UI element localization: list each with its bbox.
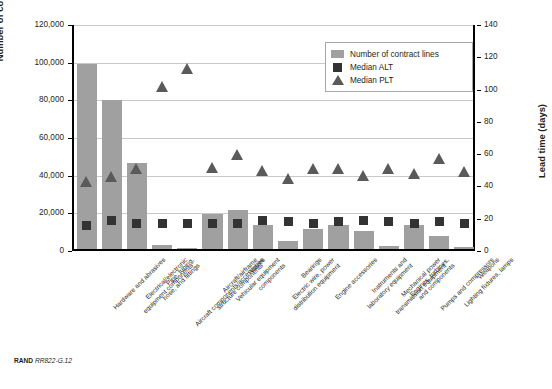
legend-label: Median ALT <box>350 63 393 72</box>
left-tick-label: 0 <box>18 246 64 255</box>
right-tick-label: 80 <box>484 117 524 126</box>
legend-item-median-plt: Median PLT <box>331 74 467 86</box>
right-tick-mark <box>477 90 481 91</box>
triangle-marker-icon <box>332 75 344 85</box>
left-tick-label: 60,000 <box>18 133 64 142</box>
median-plt-marker <box>458 166 470 177</box>
legend-label: Number of contract lines <box>350 50 439 59</box>
median-plt-marker <box>282 173 294 184</box>
left-tick-label: 40,000 <box>18 171 64 180</box>
median-plt-marker <box>332 163 344 174</box>
median-plt-marker <box>206 162 218 173</box>
right-axis-title: Lead time (days) <box>536 51 547 231</box>
median-alt-marker <box>208 219 217 228</box>
source-id: RR822-G.12 <box>35 357 72 364</box>
right-tick-mark <box>477 25 481 26</box>
median-plt-marker <box>256 165 268 176</box>
median-plt-marker <box>105 171 117 182</box>
chart-figure: Number of contract lines Lead time (days… <box>0 0 552 389</box>
gridline <box>74 25 473 26</box>
median-plt-marker <box>130 163 142 174</box>
median-alt-marker <box>435 217 444 226</box>
median-plt-marker <box>357 170 369 181</box>
left-tick-label: 20,000 <box>18 208 64 217</box>
bar <box>228 210 248 249</box>
median-alt-marker <box>384 217 393 226</box>
square-marker-icon <box>333 63 342 72</box>
bar <box>404 225 424 249</box>
right-tick-mark <box>477 219 481 220</box>
legend-item-contract-lines: Number of contract lines <box>331 48 467 60</box>
bar <box>454 247 474 249</box>
median-plt-marker <box>156 81 168 92</box>
median-plt-marker <box>408 168 420 179</box>
median-plt-marker <box>181 63 193 74</box>
bar-swatch-icon <box>331 50 344 58</box>
median-plt-marker <box>382 163 394 174</box>
median-alt-marker <box>334 217 343 226</box>
right-tick-label: 140 <box>484 20 524 29</box>
median-alt-marker <box>258 216 267 225</box>
left-tick-mark <box>68 251 72 252</box>
median-alt-marker <box>359 216 368 225</box>
gridline <box>74 100 473 101</box>
right-tick-label: 0 <box>484 246 524 255</box>
median-alt-marker <box>309 219 318 228</box>
left-tick-label: 120,000 <box>18 20 64 29</box>
right-tick-mark <box>477 122 481 123</box>
legend-label: Median PLT <box>350 76 394 85</box>
right-tick-label: 20 <box>484 214 524 223</box>
median-alt-marker <box>132 219 141 228</box>
left-tick-label: 80,000 <box>18 95 64 104</box>
median-alt-marker <box>158 219 167 228</box>
median-plt-marker <box>433 153 445 164</box>
legend-item-median-alt: Median ALT <box>331 61 467 73</box>
right-tick-label: 100 <box>484 85 524 94</box>
bar <box>328 225 348 249</box>
bar <box>152 245 172 249</box>
right-tick-label: 40 <box>484 181 524 190</box>
right-tick-label: 60 <box>484 149 524 158</box>
right-tick-mark <box>477 57 481 58</box>
left-axis-title: Number of contract lines <box>0 0 5 96</box>
source-org: RAND <box>14 357 33 364</box>
legend: Number of contract lines Median ALT Medi… <box>325 42 473 92</box>
bar <box>177 248 197 250</box>
median-alt-marker <box>410 219 419 228</box>
bar <box>127 163 147 249</box>
median-plt-marker <box>80 176 92 187</box>
median-alt-marker <box>183 219 192 228</box>
bar <box>379 246 399 249</box>
median-alt-marker <box>82 221 91 230</box>
median-plt-marker <box>231 149 243 160</box>
right-tick-mark <box>477 251 481 252</box>
bar <box>303 229 323 249</box>
median-alt-marker <box>233 219 242 228</box>
bar <box>278 241 298 249</box>
median-alt-marker <box>460 219 469 228</box>
bar <box>354 231 374 249</box>
median-plt-marker <box>307 163 319 174</box>
right-tick-mark <box>477 186 481 187</box>
median-alt-marker <box>284 217 293 226</box>
median-alt-marker <box>107 216 116 225</box>
gridline <box>74 138 473 139</box>
bar <box>429 236 449 249</box>
right-tick-mark <box>477 154 481 155</box>
right-tick-label: 120 <box>484 52 524 61</box>
left-tick-label: 100,000 <box>18 58 64 67</box>
bar <box>253 225 273 249</box>
source-note: RAND RR822-G.12 <box>14 357 72 364</box>
